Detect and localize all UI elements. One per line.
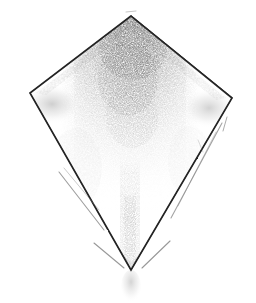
kite-sketch-canvas: Kite — [0, 0, 256, 303]
bottom-tail-smudge — [121, 270, 141, 303]
kite-drawing — [0, 0, 256, 303]
mid-core-shadow — [106, 84, 158, 148]
